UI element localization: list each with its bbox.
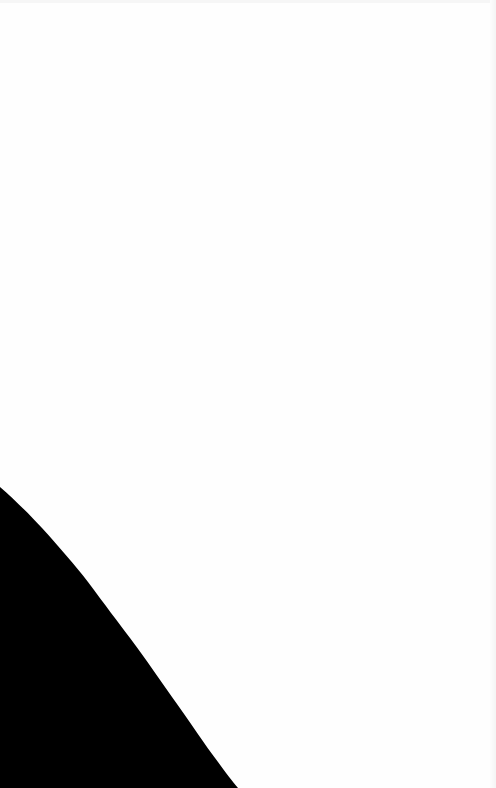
photo-scene: Blank white surface with a dark curved s…	[0, 0, 496, 788]
dark-curved-shape	[0, 0, 496, 788]
dark-shape-path	[0, 487, 238, 788]
